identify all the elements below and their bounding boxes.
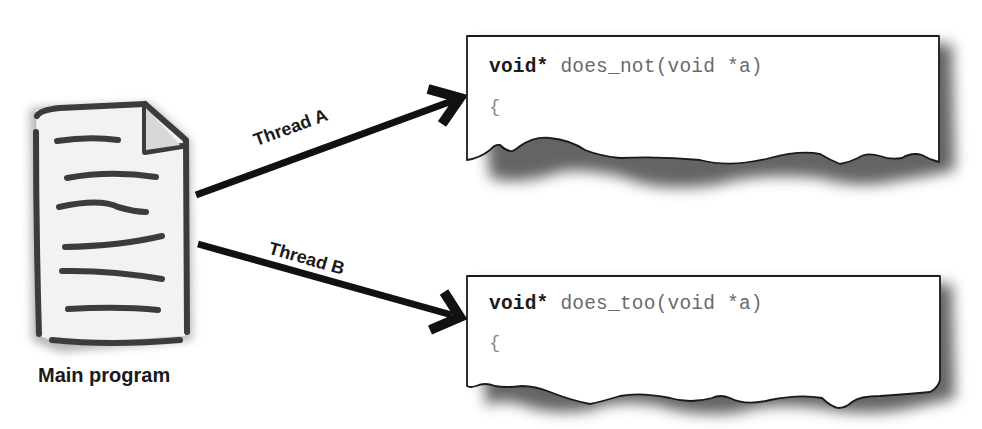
code-body-open-thread-b: { (489, 332, 500, 354)
main-program-label: Main program (38, 364, 170, 387)
document-icon (30, 104, 192, 352)
return-type: void* (489, 56, 549, 78)
function-signature: does_not(void *a) (549, 56, 763, 78)
return-type: void* (489, 293, 549, 315)
function-signature: does_too(void *a) (549, 293, 763, 315)
arrow-thread-a (196, 89, 460, 195)
code-body-open-thread-a: { (489, 96, 500, 118)
code-signature-thread-b: void* does_too(void *a) (489, 293, 763, 315)
code-signature-thread-a: void* does_not(void *a) (489, 56, 763, 78)
